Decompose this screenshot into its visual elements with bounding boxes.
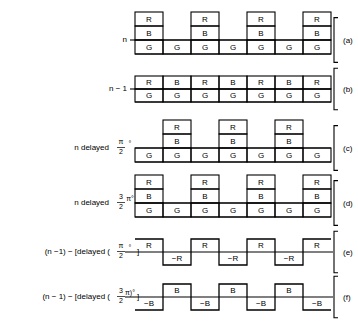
label-a-1-B: B [146,29,151,38]
cell-a-7: RBG [303,12,331,54]
label-a-3-R: R [202,15,208,24]
label-b-4-B: B [230,78,235,87]
label-b-2-B: B [174,78,179,87]
label-f-6: B [286,286,291,295]
cell-a-4: G [219,40,247,54]
label-c-2-B: B [174,137,179,146]
row-label-suffix-e: ] [137,247,139,256]
label-a-2-G: G [174,43,180,52]
row-label-prefix-f: (n − 1) − [delayed ( [42,292,110,301]
label-f-1: −B [144,299,154,308]
label-d-7-G: G [314,206,320,215]
label-b-5-R: R [258,78,264,87]
cell-b-5: RG [247,76,275,102]
label-b-7-G: G [314,91,320,100]
fraction-numerator-c: π [119,138,124,145]
cell-d-1: RBG [135,175,163,217]
cell-b-3: RG [191,76,219,102]
fraction-denominator-d: 2 [119,203,123,210]
cell-b-1: RG [135,76,163,102]
cell-a-1: RBG [135,12,163,54]
label-b-3-R: R [202,78,208,87]
label-b-3-G: G [202,91,208,100]
fraction-f: 32π)° [117,287,135,304]
label-a-4-G: G [230,43,236,52]
label-e-6: −R [284,254,295,263]
row-a: RBGGRBGGRBGGRBGn [123,12,331,54]
label-a-6-G: G [286,43,292,52]
cell-c-6: RBG [275,120,303,162]
fraction-suffix-f: π)° [125,289,135,297]
fraction-c: π2° [117,138,132,155]
label-f-4: B [230,286,235,295]
label-c-7-G: G [314,151,320,160]
label-d-7-R: R [314,178,320,187]
fraction-e: π2° [117,242,132,259]
fraction-suffix-e: ° [129,244,132,251]
cell-a-2: G [163,40,191,54]
label-a-1-R: R [146,15,152,24]
label-c-2-R: R [174,123,180,132]
label-d-3-R: R [202,178,208,187]
fraction-numerator-d: 3 [119,193,123,200]
row-c: GRBGGRBGGRBGGπ2°n delayed [74,120,331,162]
waveform-figure: RBGGRBGGRBGGRBGn(a)RGBGRGBGRGBGRGn − 1(b… [0,0,358,322]
cell-c-7: G [303,148,331,162]
fraction-numerator-f: 3 [119,287,123,294]
cell-a-6: G [275,40,303,54]
panel-bracket-f [334,276,338,318]
row-label-suffix-f: ] [137,292,139,301]
label-f-7: −B [312,299,322,308]
label-c-4-R: R [230,123,236,132]
label-b-1-G: G [146,91,152,100]
label-d-2-G: G [174,206,180,215]
label-e-4: −R [228,254,239,263]
row-e: R−RR−RR−RRπ2°(n −1) − [delayed (] [45,239,333,265]
label-e-1: R [146,241,152,250]
label-f-5: −B [256,299,266,308]
fraction-denominator-e: 2 [119,252,123,259]
label-d-1-R: R [146,178,152,187]
cell-d-3: RBG [191,175,219,217]
label-b-2-G: G [174,91,180,100]
label-b-6-B: B [286,78,291,87]
label-e-7: R [314,241,320,250]
label-d-7-B: B [314,192,319,201]
label-d-5-R: R [258,178,264,187]
cell-c-2: RBG [163,120,191,162]
label-b-5-G: G [258,91,264,100]
label-d-4-G: G [230,206,236,215]
label-f-2: B [174,286,179,295]
label-c-6-R: R [286,123,292,132]
row-d: RBGGRBGGRBGGRBG32π°n delayed [74,175,331,217]
label-a-3-B: B [202,29,207,38]
label-f-3: −B [200,299,210,308]
cell-a-5: RBG [247,12,275,54]
cell-d-2: G [163,203,191,217]
cell-a-3: RBG [191,12,219,54]
label-a-5-B: B [258,29,263,38]
label-e-5: R [258,241,264,250]
cell-b-4: BG [219,76,247,102]
label-c-4-G: G [230,151,236,160]
row-label-d: n delayed [74,198,109,207]
fraction-d: 32π° [117,193,134,210]
label-d-3-B: B [202,192,207,201]
fraction-suffix-c: ° [129,140,132,147]
fraction-denominator-c: 2 [119,148,123,155]
cell-c-4: RBG [219,120,247,162]
label-a-7-B: B [314,29,319,38]
panel-label-e: (e) [343,248,353,257]
label-c-2-G: G [174,151,180,160]
fraction-suffix-d: π° [126,195,134,202]
cell-c-1: G [135,148,163,162]
panel-label-a: (a) [343,36,353,45]
row-b: RGBGRGBGRGBGRGn − 1 [109,76,331,102]
cell-b-7: RG [303,76,331,102]
label-a-5-R: R [258,15,264,24]
cell-b-6: BG [275,76,303,102]
label-b-6-G: G [286,91,292,100]
panel-bracket-b [334,68,338,110]
fraction-denominator-f: 2 [119,297,123,304]
row-label-b: n − 1 [109,84,128,93]
